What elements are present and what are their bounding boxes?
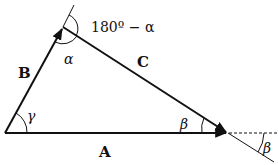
label-alpha: α <box>64 51 74 67</box>
vector-triangle-diagram: A B C α γ β β 180º − α <box>0 0 278 165</box>
label-beta: β <box>179 116 188 132</box>
label-exterior-angle: 180º − α <box>91 19 155 35</box>
vector-b-extension <box>63 5 74 27</box>
label-b: B <box>18 64 31 82</box>
label-gamma: γ <box>27 108 36 124</box>
label-beta-exterior: β <box>262 140 271 156</box>
label-a: A <box>98 143 111 161</box>
gamma-arc <box>16 113 27 133</box>
vector-c-line <box>63 27 226 132</box>
beta-arc <box>202 118 204 133</box>
label-c: C <box>137 53 149 71</box>
